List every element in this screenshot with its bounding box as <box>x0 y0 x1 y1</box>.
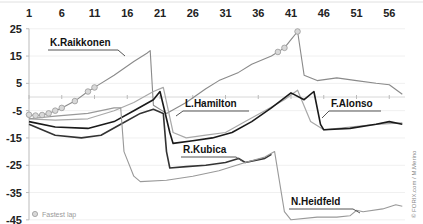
fastest-lap-marker <box>39 112 45 118</box>
fastest-lap-marker <box>282 45 288 51</box>
x-tick-label: 16 <box>121 7 133 19</box>
legend-label: Fastest lap <box>42 211 76 219</box>
driver-label: F.Alonso <box>331 98 373 109</box>
fastest-lap-marker <box>26 112 32 118</box>
driver-label: N.Heidfeld <box>291 196 340 207</box>
x-tick-label: 1 <box>26 7 32 19</box>
driver-label: R.Kubica <box>183 144 227 155</box>
fastest-lap-marker <box>92 85 98 91</box>
fastest-lap-marker <box>52 108 58 114</box>
y-tick-label: 25 <box>10 23 22 35</box>
x-tick-label: 41 <box>285 7 297 19</box>
x-tick-label: 36 <box>252 7 264 19</box>
fastest-lap-marker <box>295 29 301 35</box>
x-tick-label: 31 <box>219 7 231 19</box>
x-tick-label: 21 <box>154 7 166 19</box>
x-tick-label: 56 <box>383 7 395 19</box>
x-tick-label: 11 <box>89 7 101 19</box>
chart-canvas: 25155-5-15-25-35-45161116212631364146515… <box>0 0 423 224</box>
fastest-lap-legend-icon <box>32 211 37 216</box>
fastest-lap-marker <box>72 98 78 104</box>
x-tick-label: 6 <box>59 7 65 19</box>
fastest-lap-marker <box>275 49 281 55</box>
y-tick-label: 5 <box>16 77 22 89</box>
x-tick-label: 46 <box>318 7 330 19</box>
fastest-lap-marker <box>46 111 52 117</box>
x-tick-label: 51 <box>350 7 362 19</box>
y-tick-label: -25 <box>6 159 22 171</box>
y-tick-label: -5 <box>12 105 22 117</box>
x-tick-label: 26 <box>187 7 199 19</box>
driver-label: L.Hamilton <box>185 98 237 109</box>
lap-chart: 25155-5-15-25-35-45161116212631364146515… <box>0 0 423 224</box>
fastest-lap-marker <box>59 105 65 111</box>
credit-text: © FORIX.com / M.Merino <box>411 150 417 218</box>
y-tick-label: 15 <box>10 50 22 62</box>
driver-label: K.Raikkonen <box>50 37 111 48</box>
y-tick-label: -15 <box>6 132 22 144</box>
y-tick-label: -45 <box>6 214 22 224</box>
y-tick-label: -35 <box>6 187 22 199</box>
fastest-lap-marker <box>33 113 39 119</box>
fastest-lap-marker <box>85 89 91 95</box>
